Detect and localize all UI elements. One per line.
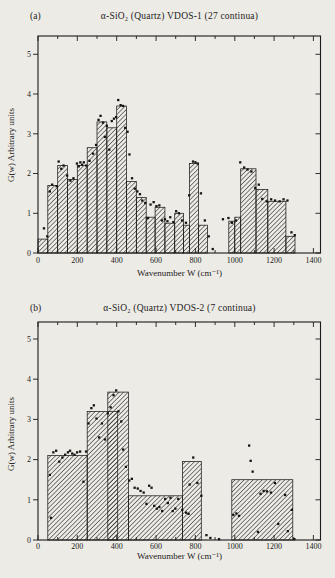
scatter-point bbox=[284, 494, 286, 496]
scatter-point bbox=[97, 119, 99, 121]
scatter-point bbox=[141, 199, 143, 201]
scatter-point bbox=[67, 451, 69, 453]
scatter-point bbox=[266, 200, 268, 202]
scatter-point bbox=[164, 218, 166, 220]
y-tick-label: 0 bbox=[27, 249, 31, 258]
scatter-point bbox=[194, 161, 196, 163]
scatter-point bbox=[181, 219, 183, 221]
scatter-point bbox=[51, 184, 53, 186]
histogram-bar bbox=[77, 166, 87, 253]
scatter-point bbox=[46, 235, 48, 237]
scatter-point bbox=[185, 512, 187, 514]
scanned-figure-page: (a) α-SiO₂ (Quartz) VDOS-1 (27 continua)… bbox=[0, 0, 335, 578]
x-tick-label: 400 bbox=[111, 256, 123, 265]
scatter-point bbox=[69, 180, 71, 182]
scatter-point bbox=[131, 177, 133, 179]
histogram-bar bbox=[127, 182, 137, 254]
scatter-point bbox=[238, 515, 240, 517]
x-tick-label: 1000 bbox=[227, 542, 243, 551]
histogram-bar bbox=[87, 148, 97, 253]
y-tick-label: 0 bbox=[27, 536, 31, 545]
scatter-point bbox=[227, 217, 229, 219]
histogram-bar bbox=[136, 197, 146, 253]
scatter-point bbox=[85, 164, 87, 166]
scatter-point bbox=[290, 231, 292, 233]
scatter-point bbox=[69, 450, 71, 452]
y-tick-label: 4 bbox=[27, 90, 31, 99]
scatter-point bbox=[120, 420, 122, 422]
scatter-point bbox=[76, 451, 78, 453]
scatter-point bbox=[128, 153, 130, 155]
scatter-point bbox=[208, 235, 210, 237]
scatter-point bbox=[161, 219, 163, 221]
scatter-point bbox=[122, 448, 124, 450]
histogram-bar bbox=[48, 456, 87, 540]
histogram-bar bbox=[129, 496, 183, 540]
scatter-point bbox=[112, 394, 114, 396]
scatter-point bbox=[49, 190, 51, 192]
scatter-point bbox=[254, 187, 256, 189]
scatter-point bbox=[126, 131, 128, 133]
scatter-point bbox=[239, 161, 241, 163]
histogram-bar bbox=[107, 128, 117, 253]
y-tick-label: 2 bbox=[27, 455, 31, 464]
scatter-point bbox=[120, 104, 122, 106]
scatter-point bbox=[172, 510, 174, 512]
scatter-point bbox=[169, 497, 171, 499]
scatter-point bbox=[205, 534, 207, 536]
scatter-point bbox=[104, 136, 106, 138]
scatter-point bbox=[122, 105, 124, 107]
scatter-point bbox=[192, 456, 194, 458]
y-tick-label: 5 bbox=[27, 50, 31, 59]
scatter-point bbox=[158, 506, 160, 508]
scatter-point bbox=[188, 194, 190, 196]
scatter-point bbox=[101, 422, 103, 424]
scatter-point bbox=[294, 234, 296, 236]
scatter-point bbox=[113, 118, 115, 120]
scatter-point bbox=[134, 188, 136, 190]
y-tick-label: 3 bbox=[27, 130, 31, 139]
scatter-point bbox=[92, 153, 94, 155]
histogram-bar bbox=[48, 185, 58, 253]
scatter-point bbox=[95, 144, 97, 146]
scatter-point bbox=[287, 530, 289, 532]
histogram-bar bbox=[235, 217, 241, 253]
scatter-point bbox=[200, 495, 202, 497]
scatter-point bbox=[274, 199, 276, 201]
scatter-point bbox=[147, 217, 149, 219]
histogram-bar bbox=[268, 201, 286, 253]
scatter-point bbox=[231, 222, 233, 224]
scatter-point bbox=[189, 483, 191, 485]
scatter-point bbox=[102, 122, 104, 124]
scatter-point bbox=[174, 508, 176, 510]
x-tick-label: 0 bbox=[36, 256, 40, 265]
histogram-bar bbox=[184, 225, 190, 253]
scatter-point bbox=[155, 205, 157, 207]
scatter-point bbox=[259, 493, 261, 495]
y-tick-label: 5 bbox=[27, 335, 31, 344]
scatter-point bbox=[117, 410, 119, 412]
scatter-point bbox=[110, 406, 112, 408]
scatter-point bbox=[139, 490, 141, 492]
scatter-point bbox=[192, 160, 194, 162]
scatter-point bbox=[291, 509, 293, 511]
scatter-point bbox=[128, 479, 130, 481]
scatter-point bbox=[196, 482, 198, 484]
scatter-point bbox=[197, 162, 199, 164]
scatter-point bbox=[98, 436, 100, 438]
x-tick-label: 1400 bbox=[305, 542, 321, 551]
scatter-point bbox=[78, 165, 80, 167]
scatter-point bbox=[82, 481, 84, 483]
scatter-point bbox=[266, 490, 268, 492]
x-axis-label-b: Wavenumber W (cm⁻¹) bbox=[38, 551, 321, 561]
scatter-point bbox=[150, 487, 152, 489]
scatter-point bbox=[270, 198, 272, 200]
scatter-point bbox=[107, 412, 109, 414]
scatter-point bbox=[108, 149, 110, 151]
scatter-point bbox=[187, 513, 189, 515]
scatter-point bbox=[62, 164, 64, 166]
scatter-point bbox=[43, 227, 45, 229]
scatter-point bbox=[50, 517, 52, 519]
x-tick-label: 1000 bbox=[227, 256, 243, 265]
scatter-point bbox=[243, 166, 245, 168]
